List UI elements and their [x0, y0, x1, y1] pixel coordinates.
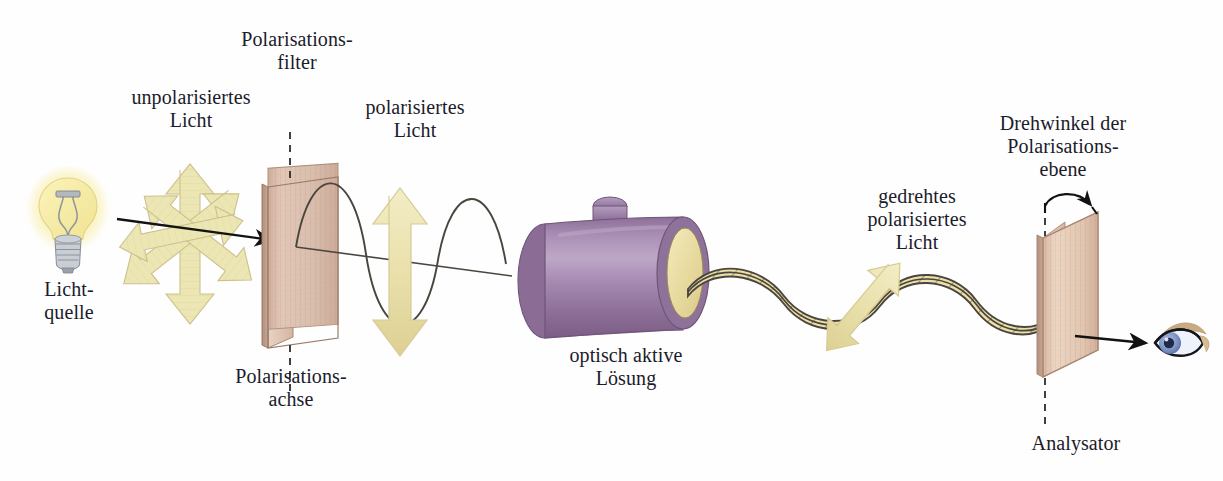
label-rotated-polarized-light: gedrehtes polarisiertes Licht	[842, 185, 992, 255]
figure-canvas: Polarisations- filter unpolarisiertes Li…	[0, 0, 1223, 481]
unpolarized-light-arrows	[110, 164, 264, 324]
label-polarized-light: polarisiertes Licht	[336, 96, 494, 142]
label-light-source: Licht- quelle	[14, 278, 124, 324]
label-polarization-filter: Polarisations- filter	[214, 28, 380, 74]
analyzer-plate	[1037, 212, 1098, 377]
label-optically-active-solution: optisch aktive Lösung	[530, 344, 722, 390]
polarization-filter-plate	[262, 163, 338, 348]
label-polarization-axis: Polarisations- achse	[198, 365, 384, 411]
sample-tube	[518, 197, 709, 338]
observer-eye	[1155, 323, 1209, 356]
polarized-double-arrow	[373, 188, 427, 356]
rotation-angle-arc	[1045, 194, 1097, 214]
light-bulb	[24, 166, 112, 273]
label-analyzer: Analysator	[1002, 432, 1150, 455]
label-unpolarized-light: unpolarisiertes Licht	[93, 86, 289, 132]
label-rotation-angle: Drehwinkel der Polarisations- ebene	[970, 112, 1156, 182]
rotated-double-arrow	[811, 250, 915, 363]
polarimetry-diagram	[0, 0, 1223, 481]
